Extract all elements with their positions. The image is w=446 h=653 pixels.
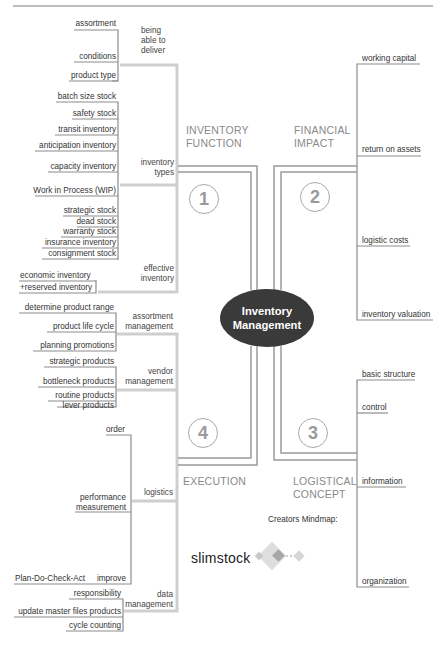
leaf-determine-product-range: determine product range	[25, 303, 114, 313]
leaf-improve: improve	[97, 574, 126, 584]
leaf-reserved-inventory: +reserved inventory	[20, 283, 92, 293]
group-label-line: data	[125, 590, 173, 600]
leaf-anticipation-inventory: anticipation inventory	[39, 141, 116, 151]
category-title-line: FUNCTION	[186, 137, 249, 150]
central-node-line: Inventory	[220, 304, 314, 318]
group-label-assortment-management: assortment management	[125, 312, 173, 332]
leaf-dead-stock: dead stock	[76, 217, 116, 227]
central-node-line: Management	[220, 318, 314, 332]
group-label-line: assortment	[125, 312, 173, 322]
group-label-line: types	[141, 168, 174, 178]
leaf-batch-size-stock: batch size stock	[58, 92, 116, 102]
leaf-working-capital: working capital	[362, 54, 416, 64]
leaf-lever-products: lever products	[63, 401, 114, 411]
leaf-routine-products: routine products	[55, 391, 114, 401]
group-label-line: management	[125, 600, 173, 610]
category-title-financial-impact: FINANCIAL IMPACT	[294, 124, 351, 149]
slimstock-wordmark: slimstock	[191, 550, 250, 566]
leaf-insurance-inventory: insurance inventory	[45, 238, 116, 248]
category-title-line: CONCEPT	[293, 488, 357, 501]
leaf-product-life-cycle: product life cycle	[53, 322, 114, 332]
leaf-wip: Work in Process (WIP)	[33, 186, 116, 196]
group-label-line: deliver	[141, 46, 166, 56]
group-label-data-management: data management	[125, 590, 173, 610]
leaf-assortment: assortment	[76, 19, 117, 29]
leaf-information: information	[362, 477, 403, 487]
leaf-transit-inventory: transit inventory	[58, 125, 116, 135]
leaf-strategic-stock: strategic stock	[64, 206, 116, 216]
group-label-line: inventory	[141, 158, 174, 168]
leaf-warranty-stock: warranty stock	[63, 227, 116, 237]
leaf-inventory-valuation: inventory valuation	[362, 310, 430, 320]
leaf-capacity-inventory: capacity inventory	[50, 162, 116, 172]
leaf-safety-stock: safety stock	[73, 109, 116, 119]
creators-mindmap-label: Creators Mindmap:	[268, 515, 338, 524]
category-title-inventory-function: INVENTORY FUNCTION	[186, 124, 249, 149]
leaf-line: performance	[76, 493, 126, 503]
slimstock-diamond-logo-icon	[253, 541, 313, 579]
group-label-effective-inventory: effective inventory	[141, 264, 174, 284]
leaf-plan-do-check-act: Plan-Do-Check-Act	[15, 574, 85, 584]
quadrant-number-4: 4	[188, 418, 218, 448]
quadrant-number-2: 2	[300, 182, 330, 212]
leaf-consignment-stock: consignment stock	[48, 249, 116, 259]
leaf-return-on-assets: return on assets	[362, 145, 421, 155]
leaf-line: measurement	[76, 503, 126, 513]
category-title-line: INVENTORY	[186, 124, 249, 137]
category-title-logistical-concept: LOGISTICAL CONCEPT	[293, 475, 357, 500]
group-label-logistics: logistics	[144, 488, 173, 498]
leaf-control: control	[362, 403, 387, 413]
leaf-economic-inventory: economic inventory	[20, 271, 91, 281]
central-node-inventory-management: Inventory Management	[220, 289, 314, 347]
leaf-product-type: product type	[71, 71, 116, 81]
group-label-line: management	[125, 322, 173, 332]
group-label-vendor-management: vendor management	[125, 367, 173, 387]
group-label-line: management	[125, 377, 173, 387]
group-label-being-able-to-deliver: being able to deliver	[141, 26, 166, 56]
leaf-strategic-products: strategic products	[49, 357, 114, 367]
category-title-line: IMPACT	[294, 137, 351, 150]
quadrant-number-3: 3	[298, 418, 328, 448]
leaf-planning-promotions: planning promotions	[40, 341, 114, 351]
group-label-line: able to	[141, 36, 166, 46]
quadrant-number-1: 1	[189, 184, 219, 214]
leaf-conditions: conditions	[79, 52, 116, 62]
group-label-line: effective	[141, 264, 174, 274]
leaf-responsibility: responsibility	[74, 589, 121, 599]
leaf-logistic-costs: logistic costs	[362, 236, 408, 246]
leaf-bottleneck-products: bottleneck products	[43, 377, 114, 387]
category-title-execution: EXECUTION	[183, 475, 246, 488]
leaf-organization: organization	[362, 577, 407, 587]
group-label-line: being	[141, 26, 166, 36]
category-title-line: FINANCIAL	[294, 124, 351, 137]
leaf-update-master-files-products: update master files products	[18, 607, 121, 617]
category-title-line: LOGISTICAL	[293, 475, 357, 488]
leaf-basic-structure: basic structure	[362, 370, 415, 380]
group-label-inventory-types: inventory types	[141, 158, 174, 178]
leaf-cycle-counting: cycle counting	[69, 621, 121, 631]
leaf-order: order	[106, 425, 125, 435]
group-label-line: vendor	[125, 367, 173, 377]
leaf-performance-measurement: performance measurement	[76, 493, 126, 513]
group-label-line: inventory	[141, 274, 174, 284]
